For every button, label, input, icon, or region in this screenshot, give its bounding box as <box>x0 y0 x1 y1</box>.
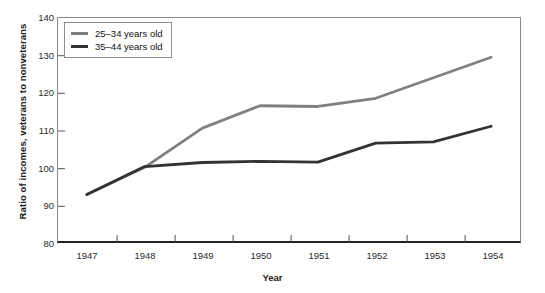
y-axis-tick-labels: 140 130 120 110 100 90 80 <box>14 0 54 293</box>
y-tick-130: 130 <box>20 49 54 60</box>
series-line-25-34 <box>87 57 491 194</box>
legend-swatch-25-34 <box>71 32 88 35</box>
legend-label-25-34: 25–34 years old <box>95 28 163 39</box>
x-tick-1947: 1947 <box>57 250 117 261</box>
x-axis-tick-marks <box>117 235 465 242</box>
y-tick-140: 140 <box>20 12 54 23</box>
y-tick-120: 120 <box>20 87 54 98</box>
y-tick-90: 90 <box>20 200 54 211</box>
series-line-35-44 <box>87 126 491 194</box>
x-tick-1949: 1949 <box>173 250 233 261</box>
legend-item-35-44: 35–44 years old <box>71 40 163 53</box>
y-tick-80: 80 <box>20 238 54 249</box>
x-tick-1948: 1948 <box>115 250 175 261</box>
x-tick-1952: 1952 <box>347 250 407 261</box>
legend-item-25-34: 25–34 years old <box>71 27 163 40</box>
legend-swatch-35-44 <box>71 45 88 48</box>
x-tick-1954: 1954 <box>463 250 523 261</box>
legend-label-35-44: 35–44 years old <box>95 41 163 52</box>
y-tick-110: 110 <box>20 125 54 136</box>
chart-figure: Ratio of incomes, veterans to nonveteran… <box>0 0 545 293</box>
x-tick-1953: 1953 <box>405 250 465 261</box>
x-tick-1950: 1950 <box>231 250 291 261</box>
x-axis-title: Year <box>0 272 545 283</box>
y-tick-100: 100 <box>20 162 54 173</box>
x-tick-1951: 1951 <box>289 250 349 261</box>
y-axis-ticks-marks <box>58 56 65 207</box>
chart-legend: 25–34 years old 35–44 years old <box>64 22 172 58</box>
